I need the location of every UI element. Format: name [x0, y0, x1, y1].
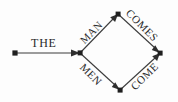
transition-network-diagram: THE MAN MEN COMES COME — [0, 0, 178, 102]
edge-the — [15, 49, 80, 56]
branch-node — [78, 50, 83, 55]
top-node — [116, 12, 121, 17]
diagram-canvas — [0, 0, 178, 102]
edge-label-the: THE — [31, 37, 57, 49]
start-node — [12, 50, 17, 55]
bottom-node — [118, 88, 123, 93]
end-node — [158, 51, 163, 56]
